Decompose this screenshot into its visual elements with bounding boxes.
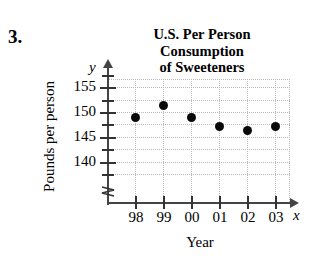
x-tick-00 [191, 196, 193, 209]
y-tick-minor-142 [102, 149, 114, 151]
gridline-vertical-right-edge [289, 79, 290, 202]
y-tick-label-145: 145 [60, 128, 96, 145]
y-tick-label-155: 155 [60, 78, 96, 95]
x-axis-variable-label: x [293, 207, 300, 224]
y-axis-arrow-icon [103, 59, 113, 68]
gridline-vertical-98 [135, 79, 136, 202]
gridline-vertical-02 [247, 79, 248, 202]
gridline-vertical-03 [275, 79, 276, 202]
x-tick-99 [163, 196, 165, 209]
x-tick-02 [247, 196, 249, 209]
chart-figure: 3. U.S. Per Person Consumption of Sweete… [0, 0, 317, 261]
x-tick-03 [275, 196, 277, 209]
data-point [159, 101, 168, 110]
x-tick-label-02: 02 [235, 209, 261, 226]
plot-area: y x 155 150 145 140 98 99 00 01 [0, 0, 317, 261]
x-tick-label-00: 00 [179, 209, 205, 226]
y-tick-140 [100, 162, 116, 164]
y-tick-label-140: 140 [60, 153, 96, 170]
x-tick-label-01: 01 [207, 209, 233, 226]
data-point [271, 122, 280, 131]
axis-break-icon [100, 184, 116, 200]
x-tick-label-98: 98 [123, 209, 149, 226]
y-tick-minor-147 [102, 124, 114, 126]
data-point [215, 122, 224, 131]
gridline-vertical-01 [219, 79, 220, 202]
y-tick-minor-152 [102, 100, 114, 102]
y-axis-variable-label: y [89, 59, 96, 76]
x-tick-label-03: 03 [263, 209, 289, 226]
y-tick-minor-137 [102, 174, 114, 176]
data-point [243, 126, 252, 135]
gridline-vertical-99 [163, 79, 164, 202]
x-tick-label-99: 99 [151, 209, 177, 226]
data-point [187, 113, 196, 122]
y-tick-145 [100, 137, 116, 139]
x-tick-01 [219, 196, 221, 209]
y-tick-155 [100, 87, 116, 89]
gridline-vertical-00 [191, 79, 192, 202]
data-point [131, 113, 140, 122]
y-tick-150 [100, 112, 116, 114]
y-tick-label-150: 150 [60, 103, 96, 120]
x-tick-98 [135, 196, 137, 209]
y-tick-minor-157 [102, 75, 114, 77]
